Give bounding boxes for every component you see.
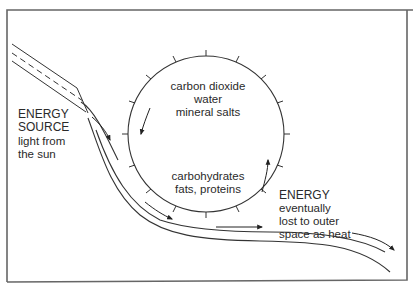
arrow-up-right-circle [262,160,268,192]
input-carbon-dioxide: carbon dioxide [156,80,260,93]
energy-loss-desc-3: space as heat [279,228,351,241]
energy-loss-label: ENERGY eventually lost to outer space as… [279,189,351,241]
input-water: water [156,93,260,106]
product-fats-proteins: fats, proteins [158,183,258,196]
energy-loss-desc-1: eventually [279,202,351,215]
arrow-down-left-circle [141,108,150,134]
energy-source-desc-2: the sun [18,148,69,161]
arrow-along-band-1 [145,202,172,219]
cycle-products-label: carbohydrates fats, proteins [158,170,258,196]
cycle-inputs-label: carbon dioxide water mineral salts [156,80,260,119]
input-mineral-salts: mineral salts [156,106,260,119]
energy-source-heading-2: SOURCE [18,121,69,134]
energy-loss-heading: ENERGY [279,189,351,202]
product-carbohydrates: carbohydrates [158,170,258,183]
energy-source-desc-1: light from [18,135,69,148]
energy-loss-desc-2: lost to outer [279,215,351,228]
energy-source-label: ENERGY SOURCE light from the sun [18,108,69,161]
sunlight-beam [12,44,88,113]
